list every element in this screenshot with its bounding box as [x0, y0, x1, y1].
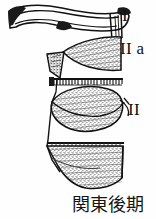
lower-body-group [45, 140, 125, 189]
rim-band-group [8, 5, 131, 40]
label-section-II: II [128, 101, 140, 118]
figure-caption: 関東後期 [72, 196, 144, 214]
figure-container: I II a II 関東後期 [0, 0, 156, 219]
label-section-IIa: II a [120, 40, 144, 57]
serrated-band-group [49, 77, 123, 86]
mid-body-group [48, 87, 129, 140]
label-section-I: I [122, 7, 128, 24]
